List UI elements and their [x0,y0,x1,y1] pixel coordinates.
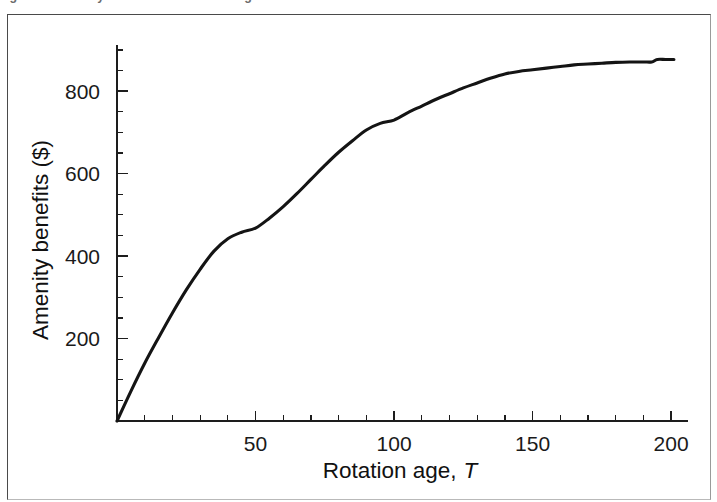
y-axis-minor-ticks [117,50,123,400]
x-axis-major-ticks [256,411,672,421]
x-axis-title: Rotation age,T [323,458,480,483]
y-tick-label: 800 [65,80,100,103]
x-tick-label: 50 [244,432,267,455]
x-tick-label: 200 [654,432,689,455]
y-axis-title: Amenity benefits ($) [28,140,53,340]
y-axis-tick-labels: 200400600800 [65,80,100,350]
x-tick-label: 100 [377,432,412,455]
x-axis-tick-labels: 50100150200 [244,432,689,455]
data-series-amenity-benefits [117,59,674,421]
amenity-benefits-line-chart: 50100150200 200400600800 Rotation age,T … [0,0,717,502]
y-tick-label: 400 [65,245,100,268]
x-tick-label: 150 [515,432,550,455]
y-tick-label: 600 [65,162,100,185]
y-tick-label: 200 [65,327,100,350]
chart-plot-area: 50100150200 200400600800 Rotation age,T … [0,0,717,502]
